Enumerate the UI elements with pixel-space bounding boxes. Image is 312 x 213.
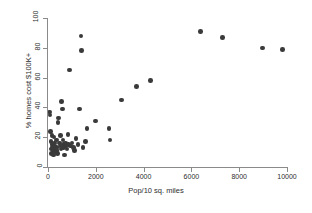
- data-point: [67, 68, 72, 73]
- y-axis-title: % homes cost $100K+: [24, 16, 33, 166]
- y-tick-label: 80: [0, 43, 42, 50]
- data-point: [56, 116, 61, 121]
- y-tick-mark: [43, 78, 47, 79]
- data-point: [76, 142, 81, 147]
- data-point: [66, 132, 71, 137]
- x-tick-label: 0: [46, 173, 50, 180]
- x-tick-mark: [96, 168, 97, 172]
- data-point: [93, 119, 98, 124]
- y-tick-label: 0: [0, 162, 42, 169]
- data-point: [198, 29, 203, 34]
- data-point: [62, 153, 67, 158]
- x-tick-label: 10000: [277, 173, 296, 180]
- x-tick-mark: [191, 168, 192, 172]
- data-point: [81, 145, 86, 150]
- data-point: [74, 136, 79, 141]
- y-tick-mark: [43, 107, 47, 108]
- y-tick-label: 60: [0, 73, 42, 80]
- y-tick-label: 40: [0, 102, 42, 109]
- x-tick-label: 2000: [88, 173, 104, 180]
- x-tick-mark: [239, 168, 240, 172]
- data-point: [85, 126, 90, 131]
- plot-area: [48, 18, 287, 167]
- data-point: [280, 47, 285, 52]
- x-tick-mark: [48, 168, 49, 172]
- data-point: [55, 151, 60, 156]
- y-tick-mark: [43, 18, 47, 19]
- x-tick-label: 8000: [231, 173, 247, 180]
- data-point: [220, 35, 225, 40]
- data-point: [72, 148, 77, 153]
- data-point: [134, 84, 139, 89]
- y-tick-mark: [43, 48, 47, 49]
- y-axis-line: [47, 18, 48, 168]
- data-point: [79, 48, 84, 53]
- y-tick-mark: [43, 167, 47, 168]
- data-point: [260, 46, 265, 51]
- data-point: [79, 34, 84, 39]
- data-point: [77, 107, 82, 112]
- data-point: [60, 107, 65, 112]
- data-point: [108, 138, 113, 143]
- data-point: [56, 120, 61, 125]
- y-tick-label: 100: [0, 13, 42, 20]
- scatter-plot-figure: 020406080100 0200040006000800010000 Pop/…: [0, 0, 312, 213]
- x-tick-mark: [144, 168, 145, 172]
- data-point: [83, 139, 88, 144]
- x-tick-label: 6000: [184, 173, 200, 180]
- y-tick-label: 20: [0, 132, 42, 139]
- x-tick-mark: [287, 168, 288, 172]
- data-point: [107, 126, 112, 131]
- data-point: [119, 98, 124, 103]
- data-point: [48, 113, 53, 118]
- x-axis-line: [47, 167, 288, 168]
- x-tick-label: 4000: [136, 173, 152, 180]
- data-point: [59, 99, 64, 104]
- y-tick-mark: [43, 137, 47, 138]
- data-point: [148, 78, 153, 83]
- x-axis-title: Pop/10 sq. miles: [0, 186, 312, 195]
